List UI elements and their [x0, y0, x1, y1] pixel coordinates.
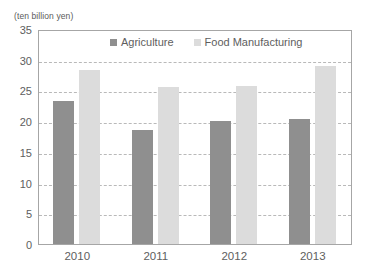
bar-2012-agriculture [210, 121, 231, 244]
bar-2013-food-manufacturing [315, 66, 336, 244]
bar-2011-agriculture [132, 130, 153, 244]
y-tick-label: 35 [6, 24, 32, 36]
y-tick-label: 30 [6, 55, 32, 67]
legend-item-agriculture: Agriculture [110, 37, 174, 48]
legend: AgricultureFood Manufacturing [110, 37, 302, 48]
bar-2010-agriculture [53, 101, 74, 244]
y-tick-label: 15 [6, 147, 32, 159]
bar-2013-agriculture [289, 119, 310, 244]
bar-group [118, 31, 197, 244]
y-tick-label: 25 [6, 85, 32, 97]
legend-swatch-icon [194, 39, 201, 46]
y-tick-label: 20 [6, 116, 32, 128]
bar-group [196, 31, 275, 244]
x-tick-label: 2013 [275, 250, 351, 262]
legend-swatch-icon [110, 39, 117, 46]
bar-2011-food-manufacturing [158, 87, 179, 244]
bar-group [275, 31, 353, 244]
legend-label: Agriculture [121, 37, 174, 48]
plot-area [38, 30, 352, 245]
legend-item-food-manufacturing: Food Manufacturing [194, 37, 303, 48]
bar-chart: (ten billion yen) 05101520253035 2010201… [0, 0, 369, 279]
y-tick-label: 5 [6, 208, 32, 220]
bar-2012-food-manufacturing [236, 86, 257, 244]
bar-2010-food-manufacturing [79, 70, 100, 244]
y-tick-label: 0 [6, 239, 32, 251]
x-tick-label: 2011 [118, 250, 194, 262]
y-tick-label: 10 [6, 178, 32, 190]
x-tick-label: 2012 [196, 250, 272, 262]
bar-group [39, 31, 118, 244]
legend-label: Food Manufacturing [205, 37, 303, 48]
x-tick-label: 2010 [39, 250, 115, 262]
bars-layer [39, 31, 351, 244]
y-axis-unit-caption: (ten billion yen) [14, 11, 73, 21]
